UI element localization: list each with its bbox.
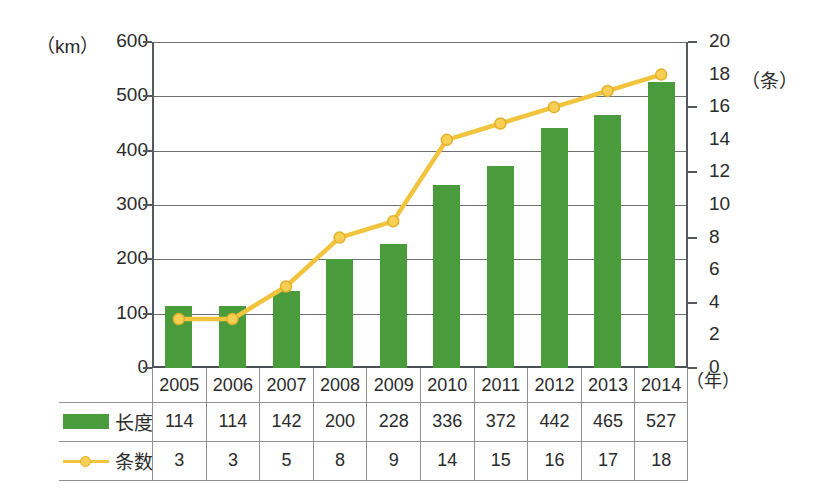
table-cell-length: 200: [313, 402, 367, 441]
table-header-year: 2008: [313, 368, 367, 402]
left-tick-mark: [143, 258, 152, 260]
line-marker: [441, 134, 452, 145]
left-axis-unit-label: （km）: [36, 31, 99, 58]
plot-area: [152, 42, 688, 368]
legend-length: 长度: [59, 402, 152, 441]
left-tick-mark: [143, 313, 152, 315]
table-header-year: 2007: [259, 368, 313, 402]
right-tick-mark: [688, 237, 697, 239]
line-marker: [281, 281, 292, 292]
left-tick-mark: [143, 204, 152, 206]
table-cell-length: 442: [527, 402, 581, 441]
table-row-years: 2005200620072008200920102011201220132014: [59, 368, 688, 402]
table-cell-count: 17: [581, 441, 635, 480]
table-cell-count: 3: [152, 441, 206, 480]
table-row-length: 长度 114114142200228336372442465527: [59, 402, 688, 441]
table-header-year: 2012: [527, 368, 581, 402]
line-marker-swatch-icon: [63, 454, 109, 468]
table-row-count: 条数 335891415161718: [59, 441, 688, 480]
bar-swatch-icon: [63, 414, 109, 429]
table-header-year: 2006: [206, 368, 260, 402]
left-tick-label: 100: [92, 302, 148, 324]
table-rule: [59, 480, 688, 481]
line-path: [179, 75, 661, 320]
table-cell-length: 336: [420, 402, 474, 441]
right-tick-label: 20: [709, 30, 749, 52]
right-tick-mark: [688, 302, 697, 304]
table-cell-count: 16: [527, 441, 581, 480]
left-tick-mark: [143, 95, 152, 97]
table-cell-count: 3: [206, 441, 260, 480]
right-axis-unit-label: （条）: [741, 66, 798, 93]
right-tick-label: 14: [709, 128, 749, 150]
data-table: 2005200620072008200920102011201220132014…: [59, 368, 688, 480]
table-cell-count: 9: [366, 441, 420, 480]
table-header-year: 2005: [152, 368, 206, 402]
right-tick-mark: [688, 367, 697, 369]
right-tick-label: 16: [709, 95, 749, 117]
left-tick-label: 300: [92, 193, 148, 215]
table-header-year: 2014: [634, 368, 688, 402]
table-cell-count: 18: [634, 441, 688, 480]
right-tick-label: 2: [709, 323, 749, 345]
line-marker: [602, 85, 613, 96]
right-tick-label: 12: [709, 160, 749, 182]
line-series-count: [152, 42, 688, 368]
table-header-year: 2011: [474, 368, 528, 402]
right-tick-label: 8: [709, 226, 749, 248]
right-tick-label: 6: [709, 258, 749, 280]
right-tick-label: 18: [709, 63, 749, 85]
table-cell-length: 228: [366, 402, 420, 441]
table-cell-length: 372: [474, 402, 528, 441]
table-cell-count: 15: [474, 441, 528, 480]
right-tick-mark: [688, 106, 697, 108]
line-marker: [173, 314, 184, 325]
legend-label-count: 条数: [115, 447, 153, 474]
legend-count: 条数: [59, 441, 152, 480]
right-tick-mark: [688, 171, 697, 173]
legend-label-length: 长度: [115, 408, 153, 435]
table-header-year: 2013: [581, 368, 635, 402]
left-tick-label: 500: [92, 84, 148, 106]
table-label-empty: [59, 368, 152, 402]
right-tick-label: 10: [709, 193, 749, 215]
table-cell-count: 14: [420, 441, 474, 480]
table-cell-count: 5: [259, 441, 313, 480]
right-tick-label: 0: [709, 356, 749, 378]
table-cell-count: 8: [313, 441, 367, 480]
line-marker: [334, 232, 345, 243]
left-tick-label: 200: [92, 247, 148, 269]
line-marker: [388, 216, 399, 227]
line-marker: [656, 69, 667, 80]
right-tick-label: 4: [709, 291, 749, 313]
table-cell-length: 465: [581, 402, 635, 441]
chart-figure: （km） （条） （年） 0100200300400500600 0246810…: [0, 0, 836, 502]
table-cell-length: 114: [152, 402, 206, 441]
right-tick-mark: [688, 41, 697, 43]
line-marker: [549, 102, 560, 113]
left-tick-label: 400: [92, 139, 148, 161]
table-header-year: 2009: [366, 368, 420, 402]
left-tick-label: 600: [92, 30, 148, 52]
line-marker: [495, 118, 506, 129]
table-cell-length: 114: [206, 402, 260, 441]
left-tick-mark: [143, 41, 152, 43]
left-tick-mark: [143, 150, 152, 152]
table-header-year: 2010: [420, 368, 474, 402]
table-cell-length: 142: [259, 402, 313, 441]
table-cell-length: 527: [634, 402, 688, 441]
line-marker: [227, 314, 238, 325]
